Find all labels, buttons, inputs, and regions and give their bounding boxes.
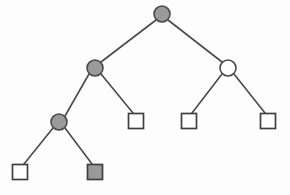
leaf-node-filled: [88, 165, 103, 180]
tree-edge: [101, 20, 156, 62]
tree-diagram-canvas: [0, 0, 290, 195]
internal-node-open: [220, 60, 236, 76]
internal-node-filled: [87, 60, 103, 76]
tree-edge: [234, 74, 265, 113]
leaf-node-open: [129, 114, 144, 129]
edges-layer: [24, 20, 265, 164]
tree-edge: [101, 74, 133, 113]
internal-node-filled: [154, 6, 170, 22]
tree-edge: [192, 74, 222, 113]
internal-node-filled: [51, 114, 67, 130]
tree-edge: [24, 128, 53, 164]
nodes-layer: [13, 6, 276, 180]
decision-tree-figure: [0, 0, 290, 195]
leaf-node-open: [13, 165, 28, 180]
tree-edge: [65, 128, 92, 164]
leaf-node-open: [182, 114, 197, 129]
tree-edge: [168, 20, 222, 62]
tree-edge: [65, 74, 89, 116]
leaf-node-open: [261, 114, 276, 129]
